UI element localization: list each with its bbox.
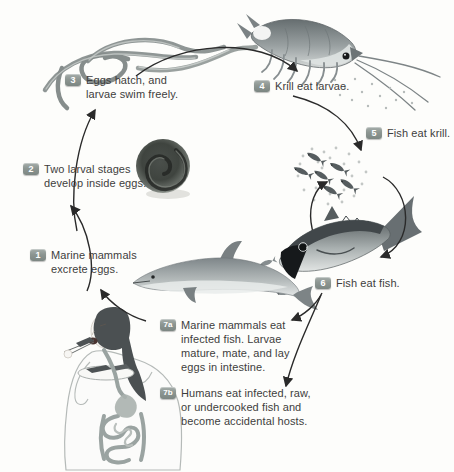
- step-4-text: Krill eat larvae.: [275, 79, 349, 93]
- step-1-badge: 1: [30, 249, 46, 261]
- step-3-label: 3 Eggs hatch, and larvae swim freely.: [65, 73, 188, 101]
- arrow-4-to-5: [293, 96, 361, 150]
- fish-school-illustration: [292, 147, 367, 206]
- step-7a-badge: 7a: [160, 319, 176, 331]
- step-4-badge: 4: [254, 80, 270, 92]
- step-7b-text: Humans eat infected, raw, or undercooked…: [181, 386, 313, 428]
- plankton-cloud: [297, 147, 368, 206]
- step-7a-text: Marine mammals eat infected fish. Larvae…: [181, 318, 295, 374]
- krill-illustration: [237, 14, 440, 110]
- step-5-badge: 5: [366, 127, 382, 139]
- step-2-label: 2 Two larval stages develop inside eggs.: [23, 162, 156, 190]
- step-2-text: Two larval stages develop inside eggs.: [44, 162, 156, 190]
- step-6-label: 6 Fish eat fish.: [315, 276, 400, 290]
- step-7b-badge: 7b: [160, 387, 176, 399]
- step-1-label: 1 Marine mammals excrete eggs.: [30, 248, 146, 276]
- step-4-label: 4 Krill eat larvae.: [254, 79, 349, 93]
- step-7b-label: 7b Humans eat infected, raw, or undercoo…: [160, 386, 313, 428]
- step-3-text: Eggs hatch, and larvae swim freely.: [86, 73, 188, 101]
- step-5-label: 5 Fish eat krill.: [366, 126, 450, 140]
- life-cycle-diagram: 1 Marine mammals excrete eggs. 2 Two lar…: [0, 0, 454, 472]
- step-3-badge: 3: [65, 74, 81, 86]
- krill-antennae: [355, 56, 440, 110]
- step-1-text: Marine mammals excrete eggs.: [51, 248, 146, 276]
- step-6-badge: 6: [315, 277, 331, 289]
- step-2-badge: 2: [23, 163, 39, 175]
- step-7a-label: 7a Marine mammals eat infected fish. Lar…: [160, 318, 295, 374]
- step-5-text: Fish eat krill.: [387, 126, 450, 140]
- step-6-text: Fish eat fish.: [336, 276, 400, 290]
